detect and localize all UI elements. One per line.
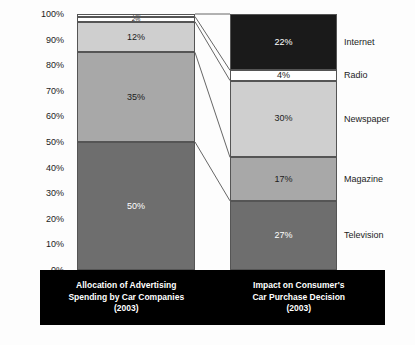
bar-impact-on-consumer-purchase-decision[interactable]: 22%4%30%17%27% — [230, 14, 337, 270]
legend-item-internet[interactable]: Internet — [344, 37, 375, 47]
legend-item-newspaper[interactable]: Newspaper — [344, 114, 390, 124]
segment-left-newspaper[interactable]: 12% — [77, 22, 195, 53]
segment-value-label: 30% — [274, 114, 292, 123]
stacked-bar-chart: 100%90%80%70%60%50%40%30%20%10%0% 1%2%12… — [0, 0, 415, 345]
legend: InternetRadioNewspaperMagazineTelevision — [344, 14, 415, 270]
segment-right-newspaper[interactable]: 30% — [230, 81, 337, 158]
segment-value-label: 12% — [127, 33, 145, 42]
caption-left: Allocation of Advertising Spending by Ca… — [40, 270, 213, 325]
caption-left-line2: Spending by Car Companies — [68, 292, 184, 304]
legend-item-magazine[interactable]: Magazine — [344, 174, 383, 184]
segment-left-television[interactable]: 50% — [77, 142, 195, 270]
segment-left-magazine[interactable]: 35% — [77, 52, 195, 142]
segment-value-label: 35% — [127, 93, 145, 102]
segment-right-television[interactable]: 27% — [230, 201, 337, 270]
segment-right-internet[interactable]: 22% — [230, 14, 337, 70]
caption-left-line3: (2003) — [114, 303, 139, 315]
segment-right-magazine[interactable]: 17% — [230, 157, 337, 201]
legend-item-television[interactable]: Television — [344, 230, 384, 240]
segment-value-label: 17% — [274, 175, 292, 184]
segment-value-label: 22% — [274, 38, 292, 47]
segment-value-label: 4% — [277, 71, 290, 80]
caption-right-line1: Impact on Consumer's — [253, 280, 344, 292]
legend-item-radio[interactable]: Radio — [344, 70, 368, 80]
segment-right-radio[interactable]: 4% — [230, 70, 337, 80]
caption-right-line3: (2003) — [286, 303, 311, 315]
caption-right: Impact on Consumer's Car Purchase Decisi… — [213, 270, 386, 325]
caption-band: Allocation of Advertising Spending by Ca… — [40, 270, 385, 325]
caption-right-line2: Car Purchase Decision — [252, 292, 345, 304]
segment-value-label: 50% — [127, 202, 145, 211]
segment-value-label: 27% — [274, 231, 292, 240]
bar-allocation-of-advertising-spending[interactable]: 1%2%12%35%50% — [77, 14, 195, 270]
caption-left-line1: Allocation of Advertising — [76, 280, 176, 292]
